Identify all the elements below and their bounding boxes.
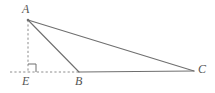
vertex-dot-A bbox=[27, 19, 30, 22]
segment-BC-line bbox=[79, 71, 194, 72]
right-angle-marker-E bbox=[28, 64, 36, 72]
vertex-label-A: A bbox=[22, 3, 29, 15]
geometry-canvas bbox=[0, 0, 215, 93]
geometry-figure: A E B C bbox=[0, 0, 215, 93]
vertex-label-E: E bbox=[22, 75, 29, 87]
vertex-label-C: C bbox=[198, 63, 206, 75]
vertex-label-B: B bbox=[75, 75, 82, 87]
